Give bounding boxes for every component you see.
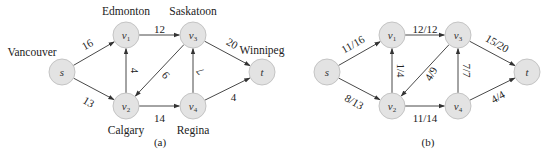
edge-s-v2	[73, 78, 114, 100]
node-v3: v3	[445, 22, 471, 48]
node-v2: v2	[113, 93, 139, 119]
city-label-v2: Calgary	[108, 124, 145, 137]
caption-b: (b)	[422, 136, 435, 149]
city-label-s: Vancouver	[7, 46, 56, 58]
edge-label-v4-v3: 7/7	[461, 63, 473, 78]
edge-label-v2-v1: 1/4	[395, 63, 407, 78]
edge-label-s-v1: 16	[80, 36, 96, 52]
panel-a-flow-network: 16131249147204sVancouverv1Edmontonv3Sask…	[7, 5, 284, 137]
flow-network-diagram: 16131249147204sVancouverv1Edmontonv3Sask…	[0, 0, 558, 154]
edge-label-v4-t: 4	[231, 91, 237, 103]
node-v3: v3	[180, 22, 206, 48]
city-label-v1: Edmonton	[102, 5, 150, 17]
edge-label-v1-v3: 12	[154, 23, 165, 35]
edge-label-v1-v3: 12/12	[412, 23, 437, 35]
node-v4: v4	[180, 93, 206, 119]
node-t: t	[514, 59, 540, 85]
edge-label-v2-v4: 11/14	[413, 112, 438, 124]
node-s: s	[314, 59, 340, 85]
node-label: s	[325, 66, 329, 78]
node-label: s	[60, 66, 64, 78]
city-label-v3: Saskatoon	[169, 5, 217, 17]
edge-s-v2	[339, 78, 381, 100]
edge-label-v2-v1: 4	[129, 68, 141, 74]
node-v4: v4	[445, 93, 471, 119]
node-t: t	[249, 59, 275, 85]
edge-v4-t	[205, 78, 250, 100]
node-v2: v2	[379, 93, 405, 119]
caption-a: (a)	[154, 136, 167, 149]
edge-label-v2-v4: 14	[154, 112, 166, 124]
edge-label-v3-v2: 4/9	[422, 64, 440, 83]
city-label-v4: Regina	[177, 124, 210, 137]
node-s: s	[49, 59, 75, 85]
edge-label-v4-t: 4/4	[489, 88, 508, 106]
edge-label-v4-v3: 7	[193, 65, 206, 77]
edge-label-v3-v2: 9	[159, 69, 172, 81]
edge-label-v3-t: 15/20	[483, 32, 511, 55]
edge-label-v3-t: 20	[224, 35, 240, 51]
edge-v3-v2	[135, 44, 184, 96]
city-label-t: Winnipeg	[240, 44, 285, 57]
node-v1: v1	[379, 22, 405, 48]
panel-b-flow-assignment: 11/168/1312/121/44/911/147/715/204/4sv1v…	[314, 22, 540, 124]
edge-label-s-v2: 8/13	[343, 92, 366, 112]
edge-label-s-v2: 13	[81, 94, 97, 110]
node-v1: v1	[113, 22, 139, 48]
